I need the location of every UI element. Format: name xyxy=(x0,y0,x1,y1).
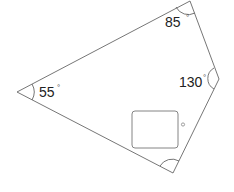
angle-label-top: 85 xyxy=(165,14,181,30)
degree-symbol-left: ° xyxy=(57,83,60,92)
angle-label-right: 130 xyxy=(179,74,203,90)
quadrilateral-diagram: 85 ° 130 ° 55 ° xyxy=(0,0,234,192)
answer-degree-icon xyxy=(181,123,184,126)
angle-arc-bottom xyxy=(160,159,179,166)
angle-label-left: 55 xyxy=(39,84,55,100)
angle-arc-left xyxy=(32,84,34,100)
answer-input-box[interactable] xyxy=(132,111,178,148)
angle-arc-right xyxy=(208,68,214,89)
degree-symbol-top: ° xyxy=(186,13,189,22)
degree-symbol-right: ° xyxy=(203,73,206,82)
